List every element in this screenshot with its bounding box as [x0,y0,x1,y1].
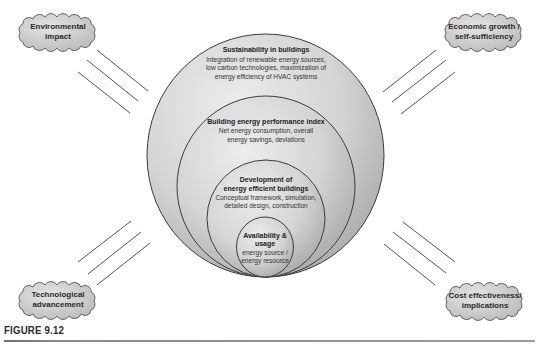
ring-title: energy efficient buildings [224,185,309,193]
ring-body-line: energy source / [242,249,288,257]
ring-title: Development of [240,176,293,184]
ring-body-line: Integration of renewable energy sources, [206,56,326,64]
ring-body-line: detailed design, construction [224,202,308,210]
cloud-label: Economic growth / [448,22,520,31]
ring-title: usage [255,240,275,248]
ring-body-line: Conceptual framework, simulation, [215,194,316,202]
cloud-label: advancement [32,300,83,309]
diagram-canvas: Sustainability in buildings Integration … [0,0,539,345]
connector-lines-top-right [383,50,455,114]
cloud-label: Technological [31,290,84,299]
ring-body-line: energy savings, deviations [227,136,305,144]
cloud-label: Cost effectiveness/ [449,291,523,300]
ring-availability-text: Availability & usage energy source / ene… [241,232,289,265]
cloud-cost-effectiveness: Cost effectiveness/ implications [446,283,522,321]
ring-title: Building energy performance index [207,118,325,126]
cloud-label: implications [462,301,509,310]
ring-sustainability-text: Sustainability in buildings Integration … [206,46,326,81]
ring-body-line: low carbon technologies, maximization of [206,64,326,72]
cloud-technological-advancement: Technological advancement [19,282,95,320]
ring-body-line: Net energy consumption, overall [219,127,314,135]
cloud-economic-growth: Economic growth / self-sufficiency [445,14,521,52]
cloud-label: impact [45,32,71,41]
ring-body-line: energy efficiency of HVAC systems [215,73,318,81]
ring-title: Availability & [243,232,287,240]
cloud-label: self-sufficiency [455,32,514,41]
cloud-label: Environmental [30,22,86,31]
connector-lines-top-left [78,50,148,113]
figure-caption: FIGURE 9.12 [4,324,64,336]
caption-rule [4,340,535,342]
ring-title: Sustainability in buildings [223,46,310,54]
connector-lines-bottom-left [78,221,150,285]
connector-lines-bottom-right [384,222,455,285]
cloud-environmental-impact: Environmental impact [19,14,95,52]
ring-body-line: energy resource [241,257,289,265]
ring-availability [237,217,294,277]
